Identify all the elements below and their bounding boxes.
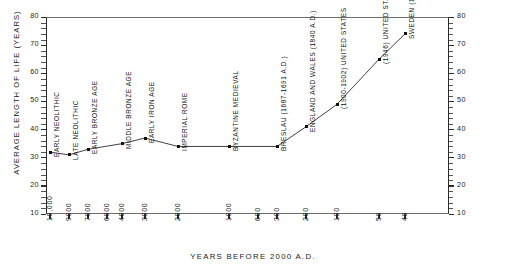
data-point-label: MIDDLE BRONZE AGE [125,71,132,149]
data-point-label: IMPERIAL ROME [181,93,188,152]
data-point [404,32,407,35]
data-point-label: (1946) UNITED STATES [382,0,389,64]
data-point-label: BRESLAU (1687-1691 A.D.) [280,56,287,151]
data-point [305,125,308,128]
data-point [87,148,90,151]
data-point-label: EARLY BRONZE AGE [91,81,98,155]
data-point [336,103,339,106]
data-point [49,151,52,154]
data-point [68,153,71,156]
data-point-label: (1900-1902) UNITED STATES [340,8,347,110]
data-point [276,145,279,148]
data-point [177,145,180,148]
data-point-label: EARLY NEOLITHIC [53,92,60,158]
data-point-label: EARLY IRON AGE [148,81,155,143]
data-point-label: ENGLAND AND WALES (1840 A.D.) [309,10,316,132]
data-point [121,142,124,145]
data-point [144,137,147,140]
data-point-label: BYZANTINE MEDIEVAL [232,71,239,152]
x-axis-title: YEARS BEFORE 2000 A.D. [0,252,506,261]
life-expectancy-chart: AVERAGE LENGTH OF LIFE (YEARS) 102030405… [0,0,506,272]
data-point-label: LATE NEOLITHIC [72,100,79,160]
data-point [228,145,231,148]
data-point [378,58,381,61]
data-point-label: SWEDEN (1961-1965) [408,0,415,39]
